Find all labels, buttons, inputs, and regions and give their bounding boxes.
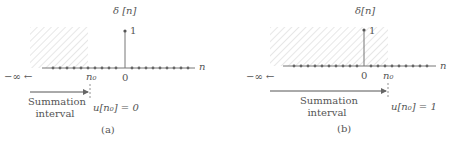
zero-label-a: 0 (122, 73, 128, 83)
neg-infinity-label-a: −∞ ← (4, 72, 32, 82)
summation-label-line1-a: Summation (28, 97, 82, 107)
impulse-dot-b (362, 28, 365, 31)
stem-value-label-b: 1 (369, 26, 375, 36)
summation-label-line1-b: Summation (300, 96, 354, 106)
axis-label-n-b: n (440, 61, 446, 71)
shaded-region-a (30, 27, 88, 68)
neg-infinity-label-b: −∞ ← (246, 72, 274, 82)
delta-title-a: δ [n] (113, 6, 136, 16)
impulse-dot-a (123, 29, 126, 32)
zero-label-b: 0 (361, 71, 367, 81)
caption-a: (a) (101, 125, 115, 135)
axis-label-n-a: n (199, 62, 205, 72)
result-label-a: u[n₀] = 0 (93, 103, 139, 113)
result-label-b: u[n₀] = 1 (391, 102, 437, 112)
summation-label-line2-b: interval (300, 108, 354, 118)
caption-b: (b) (337, 124, 351, 134)
n0-label-b: n₀ (383, 71, 393, 81)
panel-a-graphics (30, 27, 195, 100)
summation-label-line2-a: interval (28, 109, 82, 119)
delta-title-b: δ[n] (355, 6, 375, 16)
diagram-graphics (0, 0, 449, 142)
stem-value-label-a: 1 (130, 26, 136, 36)
n0-label-a: n₀ (86, 72, 96, 82)
panel-b-graphics (270, 27, 436, 99)
